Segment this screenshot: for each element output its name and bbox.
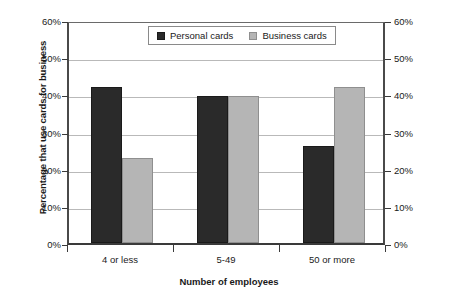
y-axis-tick-left — [62, 134, 68, 135]
bar-business-0 — [122, 158, 153, 243]
y-axis-tick-right — [385, 22, 391, 23]
dark-square-swatch-icon — [157, 32, 165, 40]
legend-label-business-cards: Business cards — [262, 30, 326, 41]
legend-item-business-cards: Business cards — [249, 30, 326, 41]
x-axis-tick-label: 5-49 — [173, 254, 279, 265]
bar-business-2 — [334, 87, 365, 243]
y-axis-tick-right — [385, 171, 391, 172]
y-axis-tick-left — [62, 96, 68, 97]
y-axis-tick-right — [385, 59, 391, 60]
x-axis-tick — [385, 245, 386, 252]
y-axis-tick-label-left: 10% — [42, 202, 61, 213]
legend-item-personal-cards: Personal cards — [157, 30, 233, 41]
y-axis-tick-label-left: 30% — [42, 128, 61, 139]
y-axis-tick-label-left: 50% — [42, 53, 61, 64]
y-axis-tick-left — [62, 59, 68, 60]
y-axis-tick-right — [385, 208, 391, 209]
x-axis-tick — [173, 245, 174, 252]
y-axis-tick-left — [62, 22, 68, 23]
y-axis-tick-label-left: 20% — [42, 165, 61, 176]
y-axis-tick-right — [385, 96, 391, 97]
y-axis-tick-label-right: 60% — [394, 16, 413, 27]
x-axis-title: Number of employees — [0, 276, 458, 287]
bar-chart: Percentage that use cards for business 0… — [0, 0, 458, 303]
x-axis-tick — [67, 245, 68, 252]
bar-business-1 — [228, 96, 259, 243]
legend: Personal cards Business cards — [148, 26, 336, 45]
y-axis-tick-label-right: 10% — [394, 202, 413, 213]
y-axis-tick-label-left: 0% — [47, 239, 61, 250]
gridline — [69, 60, 383, 61]
y-axis-tick-label-left: 60% — [42, 16, 61, 27]
bar-personal-0 — [91, 87, 122, 243]
bar-personal-2 — [303, 146, 334, 243]
y-axis-tick-right — [385, 134, 391, 135]
y-axis-tick-label-right: 0% — [394, 239, 408, 250]
y-axis-tick-label-right: 20% — [394, 165, 413, 176]
x-axis-tick-label: 4 or less — [67, 254, 173, 265]
y-axis-tick-label-right: 40% — [394, 90, 413, 101]
bar-personal-1 — [197, 96, 228, 243]
y-axis-tick-label-right: 30% — [394, 128, 413, 139]
plot-area — [67, 22, 385, 245]
y-axis-tick-left — [62, 171, 68, 172]
y-axis-tick-label-left: 40% — [42, 90, 61, 101]
y-axis-tick-label-right: 50% — [394, 53, 413, 64]
legend-label-personal-cards: Personal cards — [170, 30, 233, 41]
y-axis-tick-left — [62, 208, 68, 209]
x-axis-tick-label: 50 or more — [279, 254, 385, 265]
light-square-swatch-icon — [249, 32, 257, 40]
x-axis-tick — [279, 245, 280, 252]
